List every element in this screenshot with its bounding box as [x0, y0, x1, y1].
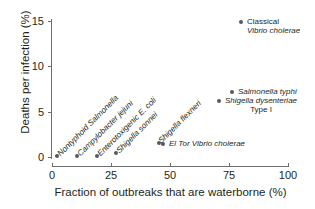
x-tick-label-50: 50	[155, 170, 185, 181]
x-axis-line	[52, 166, 289, 167]
x-tick-0	[52, 163, 53, 166]
point-label-el-tor-vibrio-cholerae: El Tor Vibrio cholerae	[169, 139, 245, 148]
point-label-shigella-dysenteriae: Shigella dysenteriae Type I	[225, 96, 297, 114]
x-axis-title: Fraction of outbreaks that are waterborn…	[28, 186, 313, 198]
scatter-chart-figure: 0 5 10 15 0 25 50 75 100 Deaths per infe…	[0, 0, 315, 209]
point-label-classical-vibrio-cholerae: Classical Vibrio cholerae	[247, 17, 300, 35]
y-tick-10	[48, 66, 51, 67]
data-point-classical-vibrio-cholerae	[239, 20, 243, 24]
y-tick-label-0: 0	[22, 152, 44, 163]
x-tick-label-0: 0	[37, 170, 67, 181]
x-tick-100	[288, 163, 289, 166]
y-tick-15	[48, 21, 51, 22]
y-tick-5	[48, 112, 51, 113]
x-tick-25	[111, 163, 112, 166]
x-tick-75	[229, 163, 230, 166]
data-point-salmonella-typhi	[230, 90, 234, 94]
x-tick-label-100: 100	[273, 170, 303, 181]
point-label-classical-line2: Vibrio cholerae	[247, 26, 300, 35]
point-label-shigella-dysenteriae-line1: Shigella dysenteriae	[225, 96, 297, 105]
point-label-shigella-dysenteriae-line2: Type I	[225, 105, 297, 114]
point-label-classical-line1: Classical	[247, 17, 300, 26]
x-tick-label-25: 25	[96, 170, 126, 181]
x-tick-label-75: 75	[214, 170, 244, 181]
x-tick-50	[170, 163, 171, 166]
y-axis-line	[51, 19, 52, 159]
point-label-salmonella-typhi: Salmonella typhi	[238, 87, 297, 96]
y-tick-0	[48, 157, 51, 158]
y-axis-title: Deaths per infection (%)	[19, 2, 31, 142]
data-point-shigella-dysenteriae	[217, 99, 221, 103]
